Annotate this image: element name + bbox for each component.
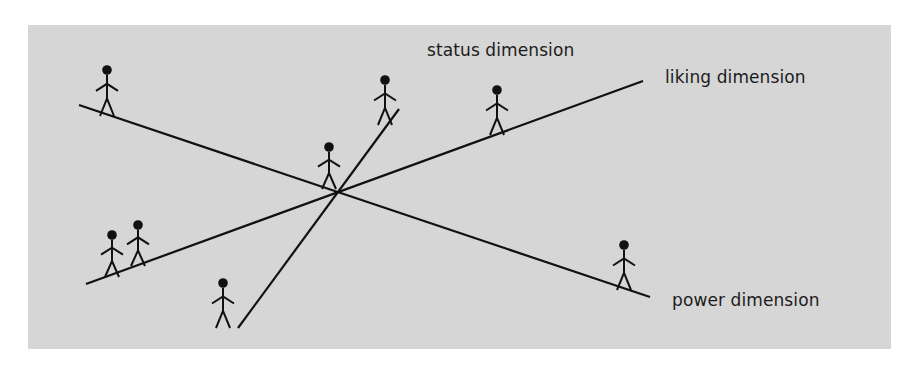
liking-dimension-label: liking dimension [665, 67, 806, 87]
dimensions-diagram: status dimension liking dimension power … [0, 0, 917, 369]
power-dimension-label: power dimension [672, 290, 820, 310]
status-dimension-label: status dimension [427, 40, 574, 60]
